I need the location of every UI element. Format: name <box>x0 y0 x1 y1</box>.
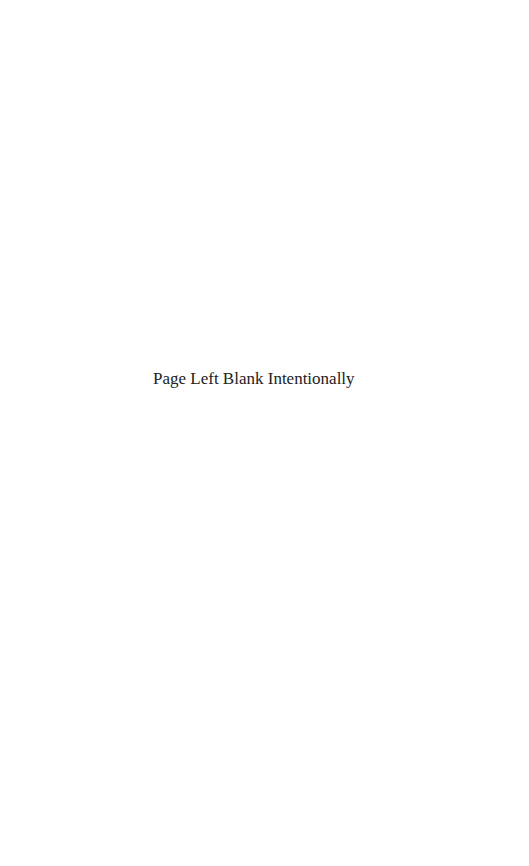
document-page: Page Left Blank Intentionally <box>0 0 529 866</box>
blank-page-notice: Page Left Blank Intentionally <box>153 369 355 389</box>
